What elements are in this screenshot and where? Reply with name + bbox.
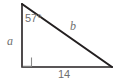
angle-label: 57° xyxy=(25,13,42,24)
geometry-figure: 57° a b 14 xyxy=(0,0,118,82)
vertical-leg-label: a xyxy=(7,35,13,47)
right-angle-marker-icon xyxy=(23,58,32,67)
horizontal-leg-label: 14 xyxy=(58,69,70,80)
hypotenuse-label: b xyxy=(70,20,76,32)
